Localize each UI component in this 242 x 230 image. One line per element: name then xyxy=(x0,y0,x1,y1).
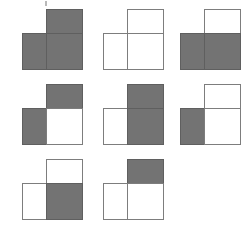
tromino-5[interactable] xyxy=(103,84,164,145)
tromino-3-cell-bottom-right xyxy=(204,33,241,70)
tromino-3[interactable] xyxy=(180,9,241,70)
tromino-8[interactable] xyxy=(103,159,164,220)
tromino-5-cell-bottom-right xyxy=(127,108,164,145)
tromino-2-cell-bottom-right xyxy=(127,33,164,70)
tromino-2[interactable] xyxy=(103,9,164,70)
tromino-4-cell-bottom-right xyxy=(46,108,83,145)
tromino-6-cell-bottom-right xyxy=(204,108,241,145)
tromino-7-cell-bottom-right xyxy=(46,183,83,220)
tromino-4[interactable] xyxy=(22,84,83,145)
tromino-1-cell-bottom-right xyxy=(46,33,83,70)
tromino-6[interactable] xyxy=(180,84,241,145)
stray-mark xyxy=(45,1,47,6)
tromino-7[interactable] xyxy=(22,159,83,220)
tromino-8-cell-bottom-right xyxy=(127,183,164,220)
figure-canvas xyxy=(0,0,242,230)
tromino-1[interactable] xyxy=(22,9,83,70)
